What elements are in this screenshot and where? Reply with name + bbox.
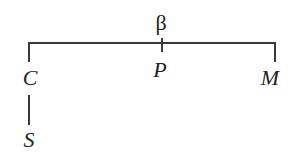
tree-diagram: β C P M S [0,0,298,162]
root-stem [161,38,163,52]
node-s: S [24,129,35,151]
root-node-beta: β [155,12,166,34]
node-c: C [23,67,38,89]
branch-to-c [28,42,30,62]
node-p: P [153,59,166,81]
branch-c-to-s [28,95,30,125]
node-m: M [261,67,279,89]
horizontal-connector [28,42,275,44]
branch-to-m [274,42,276,62]
